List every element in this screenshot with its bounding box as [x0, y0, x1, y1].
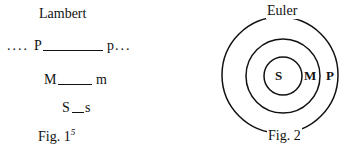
fig2-caption: Fig. 2: [267, 128, 302, 144]
outer-label-p: P: [326, 68, 334, 84]
euler-title: Euler: [266, 3, 298, 19]
middle-label-m: M: [304, 68, 316, 84]
inner-label-s: S: [275, 68, 282, 84]
